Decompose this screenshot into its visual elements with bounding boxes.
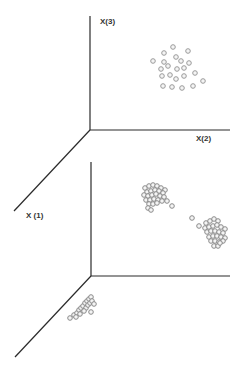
data-point [151,59,156,64]
data-point [191,84,196,89]
x3-axis-label: X(3) [100,17,115,26]
upper-plot-points [151,45,206,91]
upper-plot-axes [14,16,230,211]
data-point [171,45,176,50]
data-point [175,67,180,72]
data-point [149,208,154,213]
scatter-plot-svg [0,0,242,370]
data-point [197,224,202,229]
data-point [159,67,164,72]
data-point [201,79,206,84]
data-point [160,74,165,79]
data-point [187,61,192,66]
data-point [186,49,191,54]
data-point [74,315,79,320]
data-point [162,60,167,65]
data-point [180,86,185,91]
data-point [170,85,175,90]
data-point [160,199,165,204]
upper-x1-axis [14,130,90,211]
data-point [174,55,179,60]
data-point [190,216,195,221]
data-point [174,77,179,82]
lower-plot-axes [15,162,230,357]
data-point [182,74,187,79]
lower-plot-points [68,183,228,321]
data-point [166,64,171,69]
data-point [92,302,97,307]
data-point [165,199,170,204]
data-point [168,73,173,78]
x2-axis-label: X(2) [196,134,211,143]
data-point [193,71,198,76]
data-point [179,59,184,64]
data-point [170,204,175,209]
data-point [82,309,87,314]
x1-axis-label: X (1) [26,211,43,220]
data-point [161,84,166,89]
data-point [182,66,187,71]
data-point [218,241,223,246]
data-point [89,310,94,315]
data-point [162,51,167,56]
data-point [155,201,160,206]
figure: X(3) X(2) X (1) [0,0,242,370]
